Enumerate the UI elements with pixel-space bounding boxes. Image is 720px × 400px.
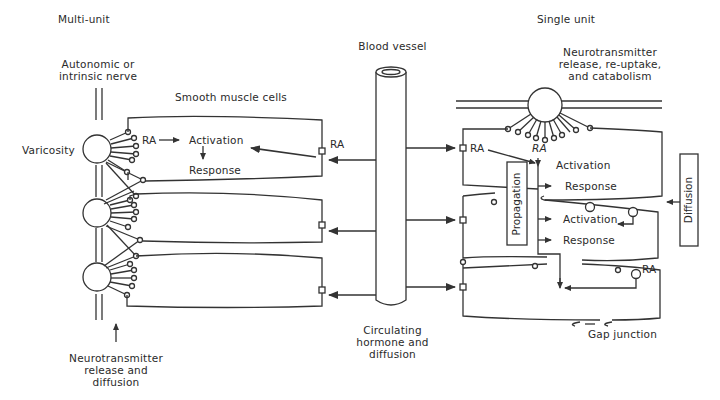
nerve-label: Autonomic or intrinsic nerve [58,58,138,82]
activation-label-1: Activation [556,159,611,171]
circulating-hormone-label: Circulating hormone and diffusion [350,324,435,360]
smooth-muscle-cell-2 [130,193,322,243]
neurotransmitter-diffusion-label: Neurotransmitter release and diffusion [66,352,166,388]
response-label-1: Response [565,180,617,192]
response-label-multi: Response [189,164,241,176]
response-label-2: Response [563,234,615,246]
ra-to-activation-arrow-single [488,150,535,163]
ra-label-multi: RA [142,134,156,146]
single-unit-title: Single unit [537,13,595,25]
gap-junction [572,322,612,326]
activation-feedback-arrow [618,216,633,224]
single-unit-ending-dots [506,126,593,143]
gap-junction-label: Gap junction [588,328,657,340]
receptor-ra-label: RA [330,138,344,150]
diffusion-label: Diffusion [682,160,696,240]
propagation-label: Propagation [510,164,524,244]
blood-vessel-label: Blood vessel [350,40,435,52]
smooth-muscle-cells-label: Smooth muscle cells [175,91,287,103]
activation-label-multi: Activation [189,134,244,146]
smooth-muscle-cell-3 [127,253,322,307]
varicosity-label: Varicosity [22,144,75,156]
nerve-ending-dots [125,130,146,298]
single-unit-nerve [456,88,662,122]
activation-label-2: Activation [563,213,618,225]
blood-vessel [376,67,406,305]
ra-left-label-single: RA [470,142,484,154]
ra-bottom-feedback-arrow [565,278,636,288]
neurotransmitter-reuptake-label: Neurotransmitter release, re-uptake, and… [555,46,665,82]
ra-top-label-single: RA [532,142,547,154]
multi-unit-title: Multi-unit [58,13,110,25]
ra-bottom-label: RA [642,263,656,275]
signal-path [538,166,560,286]
single-unit-cell-3 [463,264,660,320]
vessel-arrows [329,148,455,295]
receptor-to-activation-arrow [251,148,316,157]
